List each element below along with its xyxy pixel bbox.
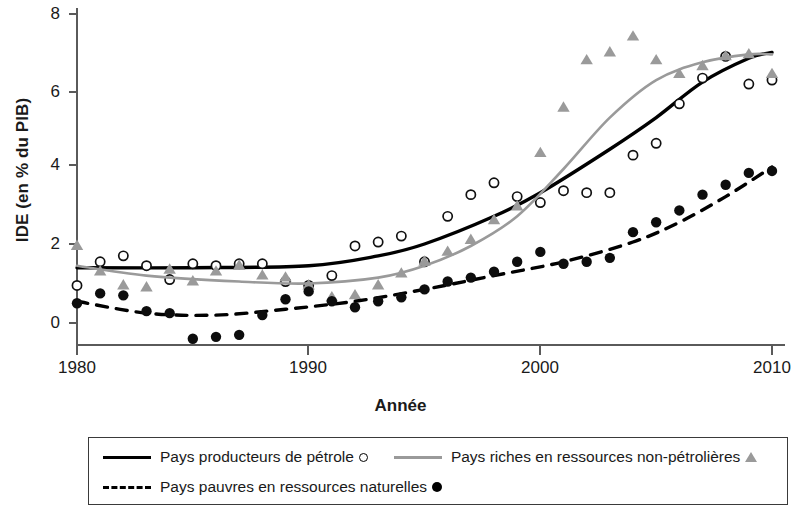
data-point (674, 205, 684, 215)
data-point (489, 178, 498, 187)
data-point (441, 245, 453, 255)
data-point (512, 257, 522, 267)
data-point (72, 281, 81, 290)
data-point (256, 269, 268, 279)
data-point (396, 292, 406, 302)
data-point (720, 180, 730, 190)
data-point (442, 276, 452, 286)
trend-line (77, 52, 772, 267)
data-point (140, 281, 152, 291)
legend-label-oil-producers: Pays producteurs de pétrole (160, 448, 354, 466)
data-point (257, 310, 267, 320)
data-point (534, 147, 546, 157)
legend-item-oil-producers[interactable]: Pays producteurs de pétrole (103, 448, 368, 466)
data-point (280, 294, 290, 304)
legend-item-resource-rich[interactable]: Pays riches en ressources non-pétrolière… (394, 448, 757, 466)
legend-line-dashed-icon (103, 486, 151, 489)
data-point (627, 30, 639, 40)
chart-legend: Pays producteurs de pétrole Pays riches … (88, 437, 788, 505)
series-1 (71, 30, 778, 301)
data-point (164, 308, 174, 318)
data-point (119, 251, 128, 260)
data-point (673, 68, 685, 78)
data-point (465, 234, 477, 244)
data-point (397, 232, 406, 241)
data-point (605, 253, 615, 263)
data-point (279, 271, 291, 281)
legend-triangle-marker-icon (745, 452, 757, 462)
data-point (604, 46, 616, 56)
data-point (72, 298, 82, 308)
data-point (698, 74, 707, 83)
chart-container: IDE (en % du PIB) 8 6 4 2 0 1980 1990 20… (0, 0, 801, 511)
data-point (744, 79, 753, 88)
data-point (188, 259, 197, 268)
data-point (327, 271, 336, 280)
legend-label-resource-poor: Pays pauvres en ressources naturelles (160, 478, 427, 496)
data-point (558, 259, 568, 269)
data-point (188, 334, 198, 344)
data-point (374, 237, 383, 246)
data-point (513, 192, 522, 201)
data-point (582, 188, 591, 197)
data-point (373, 296, 383, 306)
data-point (303, 286, 313, 296)
series-layer (71, 30, 778, 344)
plot-area (0, 0, 801, 420)
data-point (697, 189, 707, 199)
data-point (419, 284, 429, 294)
data-point (443, 212, 452, 221)
data-point (95, 288, 105, 298)
data-point (559, 186, 568, 195)
data-point (234, 330, 244, 340)
data-point (628, 151, 637, 160)
data-point (536, 198, 545, 207)
data-point (142, 261, 151, 270)
data-point (767, 166, 777, 176)
data-point (535, 247, 545, 257)
data-point (372, 279, 384, 289)
data-point (350, 241, 359, 250)
data-point (466, 272, 476, 282)
data-point (211, 332, 221, 342)
data-point (605, 188, 614, 197)
data-point (118, 290, 128, 300)
data-point (141, 306, 151, 316)
data-point (349, 289, 361, 299)
data-point (581, 257, 591, 267)
series-0 (72, 52, 776, 290)
data-point (258, 259, 267, 268)
data-point (650, 54, 662, 64)
data-point (580, 54, 592, 64)
data-point (96, 257, 105, 266)
data-point (675, 99, 684, 108)
legend-open-circle-marker-icon (359, 453, 368, 462)
series-2 (72, 166, 777, 344)
trend-line (77, 54, 772, 284)
legend-line-solid-icon (103, 456, 151, 459)
data-point (350, 302, 360, 312)
data-point (117, 279, 129, 289)
data-point (466, 190, 475, 199)
data-point (766, 68, 778, 78)
legend-row-2: Pays pauvres en ressources naturelles (89, 472, 787, 502)
data-point (651, 217, 661, 227)
legend-row-1: Pays producteurs de pétrole Pays riches … (89, 442, 787, 472)
data-point (628, 227, 638, 237)
data-point (557, 101, 569, 111)
legend-label-resource-rich: Pays riches en ressources non-pétrolière… (451, 448, 740, 466)
axis-lines (69, 8, 785, 355)
data-point (744, 168, 754, 178)
data-point (327, 296, 337, 306)
legend-filled-dot-marker-icon (432, 482, 442, 492)
data-point (489, 266, 499, 276)
legend-item-resource-poor[interactable]: Pays pauvres en ressources naturelles (103, 478, 442, 496)
data-point (652, 139, 661, 148)
legend-line-gray-icon (394, 456, 442, 459)
